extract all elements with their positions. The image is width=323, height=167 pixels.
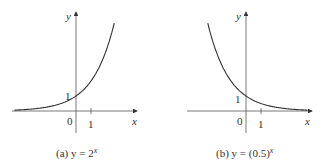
y-tick-label-1: 1 — [235, 93, 241, 105]
y-axis-label: y — [235, 10, 241, 22]
origin-label: 0 — [67, 115, 73, 127]
y-tick-label-1: 1 — [65, 90, 71, 102]
caption-b: (b) y = (0.5)x — [216, 146, 274, 160]
y-axis-label: y — [65, 10, 71, 22]
origin-label: 0 — [237, 115, 243, 127]
caption-a: (a) y = 2x — [56, 146, 98, 160]
x-axis-label: x — [304, 115, 310, 127]
x-tick-label-1: 1 — [88, 118, 94, 130]
x-axis-label: x — [131, 115, 137, 127]
chart-b: y x 0 1 1 (b) y = (0.5)x — [187, 10, 312, 160]
figure: y x 0 1 1 (a) y = 2x y x 0 1 1 (b) y = (… — [0, 0, 323, 167]
x-tick-label-1: 1 — [258, 118, 264, 130]
curve-half-pow-x — [208, 23, 308, 110]
chart-a: y x 0 1 1 (a) y = 2x — [12, 10, 137, 160]
